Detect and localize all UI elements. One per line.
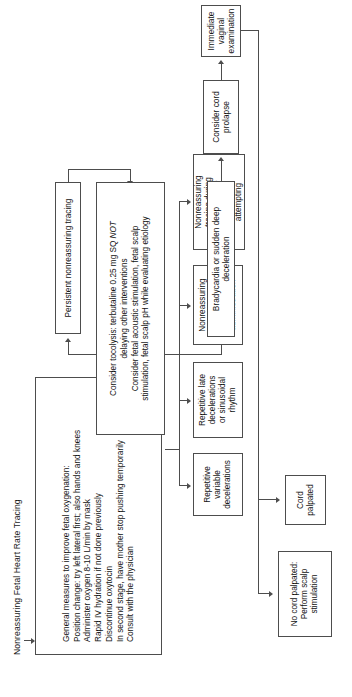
node-consider-cord-prolapse[interactable]: Consider cord prolapse: [203, 80, 239, 154]
connector-tocolysis-down: [165, 449, 179, 450]
arrowhead-to-cord-palpated: [276, 497, 280, 503]
tocolysis-line1-prefix: Consider tocolysis: terbutaline 0.25 mg …: [109, 238, 118, 395]
tocolysis-line1-emphasis: NOT: [109, 221, 118, 238]
node-bradycardia-or-sudden-deep-deceleration[interactable]: Bradycardia or sudden deep deceleration: [207, 181, 235, 337]
connector-vagexam-down: [241, 30, 258, 31]
node-persistent-label: Persistent nonreassuring tracing: [63, 199, 73, 318]
arrowhead-brady-to-cordprolapse: [218, 157, 224, 161]
diagram-title: Nonreassuring Fetal Heart Rate Tracing: [12, 499, 22, 655]
node-persistent-nonreassuring-tracing[interactable]: Persistent nonreassuring tracing: [55, 182, 81, 334]
node-cord-palpated-label: Cord palpated: [296, 484, 316, 515]
node-no-cord-palpated-scalp-stimulation[interactable]: No cord palpated: Perform scalp stimulat…: [278, 551, 332, 637]
node-immediate-vaginal-examination[interactable]: Immediate vaginal examination: [201, 5, 241, 57]
tocolysis-line4: stimulation, fetal scalp pH while evalua…: [141, 216, 150, 400]
connector-brady-to-cordprolapse: [221, 160, 222, 181]
node-general-measures-label: General measures to improve fetal oxygen…: [61, 430, 136, 642]
connector-outcome-bus: [179, 201, 180, 486]
node-no-cord-palpated-label: No cord palpated: Perform scalp stimulat…: [290, 562, 320, 627]
arrowhead-to-trial-of-labor: [187, 199, 191, 205]
connector-into-tocolysis: [130, 169, 131, 181]
node-repetitive-late-decelerations[interactable]: Repetitive late decelerations or sinusoi…: [193, 362, 243, 438]
arrowhead-to-epidural: [187, 303, 191, 309]
arrowhead-cordprolapse-to-vagexam: [218, 60, 224, 64]
node-repetitive-late-label: Repetitive late decelerations or sinusoi…: [198, 374, 238, 426]
arrowhead-to-persistent: [65, 338, 71, 342]
node-cord-palpated[interactable]: Cord palpated: [285, 475, 326, 525]
node-vaginal-exam-label: Immediate vaginal examination: [206, 9, 236, 54]
arrowhead-to-repvar: [187, 483, 191, 489]
node-cord-prolapse-label: Consider cord prolapse: [211, 91, 231, 143]
connector-cordprolapse-to-vagexam: [221, 63, 222, 80]
arrowhead-to-replate: [187, 398, 191, 404]
tocolysis-line2: delaying other interventions: [120, 258, 129, 358]
node-repetitive-variable-label: Repetitive variable decelerations: [203, 460, 233, 509]
connector-to-persistent: [68, 341, 69, 355]
connector-to-cord-palpated: [258, 499, 277, 500]
node-consider-tocolysis[interactable]: Consider tocolysis: terbutaline 0.25 mg …: [96, 182, 165, 435]
tocolysis-line3: Consider fetal acoustic stimulation, fet…: [131, 226, 140, 392]
connector-vagexam-bus: [258, 30, 259, 594]
arrowhead-to-no-cord-palpated: [269, 591, 273, 597]
node-consider-tocolysis-label: Consider tocolysis: terbutaline 0.25 mg …: [109, 216, 152, 400]
node-bradycardia-label: Bradycardia or sudden deep deceleration: [211, 185, 231, 333]
connector-persistent-out: [68, 170, 69, 182]
node-repetitive-variable-decelerations[interactable]: Repetitive variable decelerations: [193, 453, 243, 516]
flowchart-canvas: Nonreassuring Fetal Heart Rate Tracing G…: [0, 0, 352, 697]
rotated-diagram-wrapper: Nonreassuring Fetal Heart Rate Tracing G…: [0, 0, 352, 697]
connector-persistent-down: [68, 169, 130, 170]
